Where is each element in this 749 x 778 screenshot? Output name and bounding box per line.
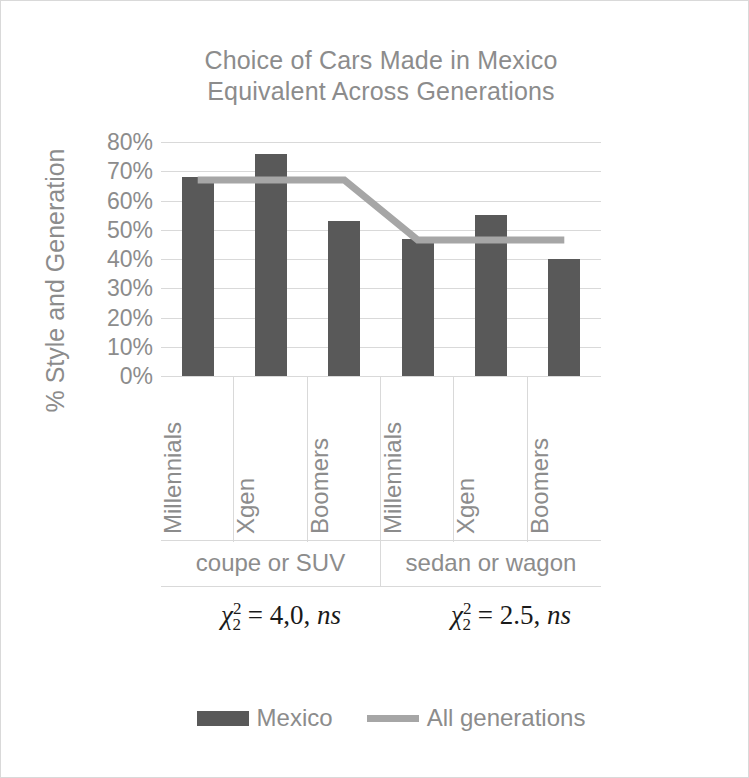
y-tick-label: 0% bbox=[67, 365, 153, 388]
legend-label: All generations bbox=[427, 706, 586, 730]
y-tick-label: 60% bbox=[67, 190, 153, 213]
category-label: Xgen bbox=[454, 478, 478, 534]
category-cell: Boomers bbox=[308, 377, 381, 542]
equals-sign: = bbox=[248, 600, 263, 630]
significance-label: ns bbox=[547, 600, 571, 630]
y-axis-tick-labels: 80%70%60%50%40%30%20%10%0% bbox=[57, 142, 153, 376]
y-tick-label: 30% bbox=[67, 277, 153, 300]
chi-value: 2.5 bbox=[500, 600, 534, 630]
y-tick-label: 20% bbox=[67, 307, 153, 330]
group-label: sedan or wagon bbox=[381, 541, 601, 587]
chart-title: Choice of Cars Made in Mexico Equivalent… bbox=[121, 45, 641, 107]
category-cell: Millennials bbox=[381, 377, 454, 542]
y-tick-label: 70% bbox=[67, 160, 153, 183]
category-cell: Xgen bbox=[234, 377, 307, 542]
group-label: coupe or SUV bbox=[161, 541, 381, 587]
category-cell: Xgen bbox=[454, 377, 527, 542]
chi-value: 4,0 bbox=[270, 600, 304, 630]
legend-item-mexico: Mexico bbox=[197, 706, 333, 730]
significance-label: ns bbox=[317, 600, 341, 630]
equals-sign: = bbox=[478, 600, 493, 630]
category-label: Boomers bbox=[308, 438, 332, 534]
chi-subscript: 2 bbox=[462, 615, 471, 634]
line-series-all-generations bbox=[161, 142, 601, 376]
annotation-sedan-or-wagon: χ22 = 2.5, ns bbox=[401, 599, 621, 635]
bar-swatch-icon bbox=[197, 711, 249, 726]
category-cell: Boomers bbox=[528, 377, 601, 542]
chart-frame: Choice of Cars Made in Mexico Equivalent… bbox=[0, 0, 749, 778]
category-label: Millennials bbox=[381, 422, 405, 534]
y-tick-label: 10% bbox=[67, 336, 153, 359]
category-label: Millennials bbox=[161, 422, 185, 534]
y-tick-label: 40% bbox=[67, 248, 153, 271]
line-swatch-icon bbox=[367, 715, 419, 722]
category-cell: Millennials bbox=[161, 377, 234, 542]
category-label: Xgen bbox=[234, 478, 258, 534]
y-tick-label: 80% bbox=[67, 131, 153, 154]
legend-item-all-generations: All generations bbox=[367, 706, 586, 730]
legend-label: Mexico bbox=[257, 706, 333, 730]
annotation-coupe-or-suv: χ22 = 4,0, ns bbox=[171, 599, 391, 635]
chart-legend: Mexico All generations bbox=[161, 698, 621, 738]
y-tick-label: 50% bbox=[67, 219, 153, 242]
category-axis: MillennialsXgenBoomersMillennialsXgenBoo… bbox=[161, 376, 601, 541]
chi-subscript: 2 bbox=[232, 615, 241, 634]
plot-area bbox=[161, 142, 601, 376]
group-axis: coupe or SUVsedan or wagon bbox=[161, 541, 601, 587]
category-label: Boomers bbox=[528, 438, 552, 534]
